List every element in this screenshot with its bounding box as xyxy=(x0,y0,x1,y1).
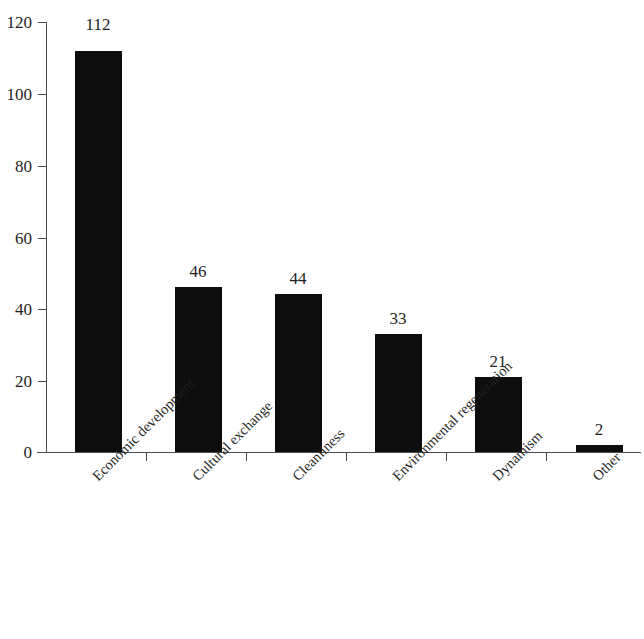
y-axis-tick xyxy=(38,166,47,167)
y-axis-tick xyxy=(38,22,47,23)
x-axis-tick xyxy=(546,453,547,461)
y-axis-tick-label: 100 xyxy=(0,86,32,103)
y-axis-tick-label: 20 xyxy=(0,373,32,390)
y-axis-tick xyxy=(38,238,47,239)
y-axis-tick-label: 0 xyxy=(0,444,32,461)
y-axis-tick xyxy=(38,309,47,310)
bar-other xyxy=(576,445,623,452)
y-axis-tick-label: 60 xyxy=(0,230,32,247)
bar-economic-development xyxy=(75,51,122,452)
y-axis-tick xyxy=(38,452,47,453)
bar-value-label: 112 xyxy=(68,16,128,33)
x-axis-tick xyxy=(146,453,147,461)
bar-value-label: 44 xyxy=(268,270,328,287)
y-axis-tick-label: 40 xyxy=(0,301,32,318)
bar-cleanliness xyxy=(275,294,322,452)
y-axis-tick-label: 80 xyxy=(0,158,32,175)
bar-value-label: 33 xyxy=(368,310,428,327)
x-axis-tick xyxy=(446,453,447,461)
x-axis-tick xyxy=(246,453,247,461)
bar-chart: 120 100 80 60 40 20 0 112 46 44 33 21 2 … xyxy=(0,0,644,639)
bar-cultural-exchange xyxy=(175,287,222,452)
x-axis-tick xyxy=(346,453,347,461)
y-axis-tick xyxy=(38,381,47,382)
x-axis-category-label-other: Other xyxy=(590,450,624,484)
bar-value-label: 2 xyxy=(569,421,629,438)
y-axis-tick xyxy=(38,94,47,95)
bar-environmental-regeneration xyxy=(375,334,422,452)
bar-value-label: 46 xyxy=(168,263,228,280)
y-axis-tick-label: 120 xyxy=(0,14,32,31)
